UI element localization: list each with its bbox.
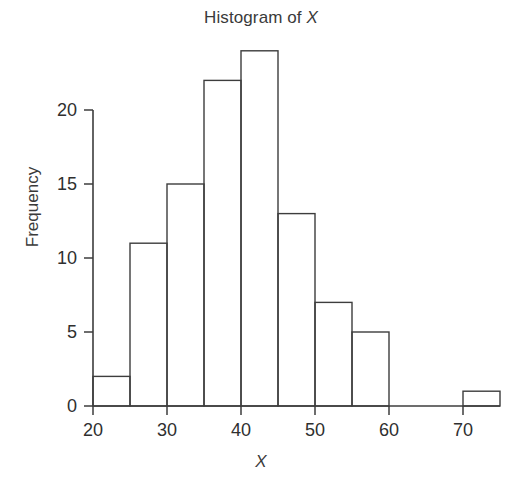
ticks-group [84,110,463,415]
x-axis-tick-label: 40 [231,420,251,440]
histogram-bar [167,184,204,406]
histogram-bar [93,376,130,406]
y-axis-tick-label: 15 [57,174,77,194]
y-axis-tick-label: 0 [67,396,77,416]
y-axis-tick-label: 5 [67,322,77,342]
histogram-bar [130,243,167,406]
histogram-bar [352,332,389,406]
x-axis-tick-label: 30 [157,420,177,440]
tick-labels-group: 05101520203040506070 [57,100,473,440]
x-axis-tick-label: 60 [379,420,399,440]
histogram-bar [278,214,315,406]
histogram-bar [204,80,241,406]
y-axis-tick-label: 20 [57,100,77,120]
histogram-bar [463,391,500,406]
bars-group [93,51,500,406]
histogram-bar [315,302,352,406]
histogram-figure: Histogram of X Frequency X 0510152020304… [0,0,522,496]
y-axis-tick-label: 10 [57,248,77,268]
x-axis-tick-label: 20 [83,420,103,440]
axes-group [93,110,500,406]
x-axis-tick-label: 70 [453,420,473,440]
plot-area: 05101520203040506070 [0,0,522,496]
x-axis-tick-label: 50 [305,420,325,440]
histogram-bar [241,51,278,406]
